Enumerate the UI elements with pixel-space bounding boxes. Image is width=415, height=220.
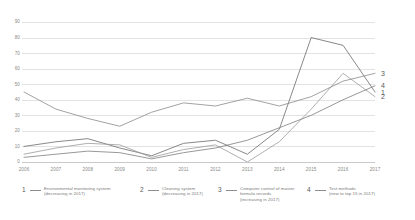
x-axis-line [22, 162, 375, 163]
x-axis-tick-label: 2012 [202, 167, 228, 173]
chart-legend: 1Environmental monitoring system(decreas… [0, 186, 415, 220]
x-axis-tick-label: 2010 [139, 167, 165, 173]
line-chart: 0102030405060708090 20062007200820092010… [0, 0, 415, 220]
x-axis-tick-label: 2011 [171, 167, 197, 173]
legend-line-swatch-icon [315, 190, 326, 191]
series-end-label-4: 4 [381, 82, 385, 89]
x-axis-tick-label: 2008 [75, 167, 101, 173]
legend-item-4: 4Test methods(new to top 15 in 2017) [307, 186, 402, 197]
legend-item-1: 1Environmental monitoring system(decreas… [22, 186, 127, 197]
x-axis-tick-label: 2015 [298, 167, 324, 173]
x-axis-tick-label: 2016 [330, 167, 356, 173]
x-axis-tick-label: 2017 [362, 167, 388, 173]
legend-number: 2 [140, 186, 147, 194]
series-end-label-3: 3 [381, 70, 385, 77]
x-axis-tick-label: 2007 [43, 167, 69, 173]
legend-label: Environmental monitoring system(decreasi… [44, 186, 127, 197]
legend-label: Computer control of masterformula record… [240, 186, 298, 202]
legend-label: Cleaning system(decreasing in 2017) [162, 186, 212, 197]
legend-number: 1 [22, 186, 29, 194]
legend-line-swatch-icon [226, 190, 237, 191]
x-axis-tick-label: 2006 [11, 167, 37, 173]
series-end-label-2: 2 [381, 93, 385, 100]
legend-item-3: 3Computer control of masterformula recor… [218, 186, 298, 202]
plot-area: 0102030405060708090 [0, 0, 415, 180]
legend-number: 4 [307, 186, 314, 194]
series-lines [0, 0, 415, 180]
legend-line-swatch-icon [30, 190, 41, 191]
legend-label: Test methods(new to top 15 in 2017) [329, 186, 402, 197]
x-axis-tick-label: 2009 [107, 167, 133, 173]
series-line-2 [24, 73, 375, 162]
series-line-3 [24, 73, 375, 126]
legend-item-2: 2Cleaning system(decreasing in 2017) [140, 186, 212, 197]
x-axis-tick-label: 2014 [266, 167, 292, 173]
legend-line-swatch-icon [148, 190, 159, 191]
legend-number: 3 [218, 186, 225, 194]
x-axis-tick-label: 2013 [234, 167, 260, 173]
